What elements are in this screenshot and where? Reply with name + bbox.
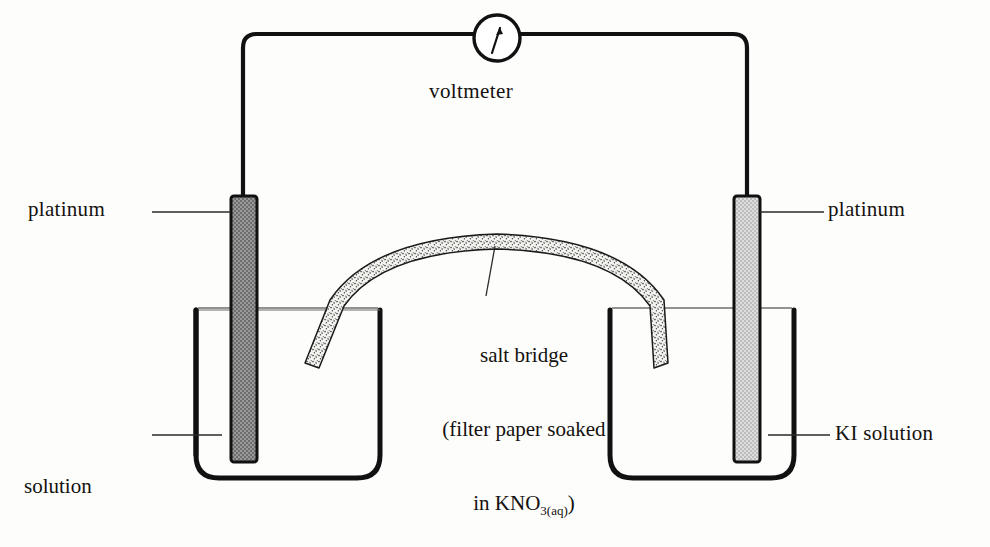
- salt-bridge-label-line3: in KNO3(aq)): [404, 491, 644, 519]
- salt-bridge-label: salt bridge (filter paper soaked in KNO3…: [404, 293, 644, 547]
- kno3-close-paren: ): [568, 491, 575, 515]
- voltmeter-label: voltmeter: [429, 79, 513, 104]
- kno3-text: in KNO: [473, 491, 540, 515]
- platinum-right-label: platinum: [828, 197, 905, 222]
- salt-bridge-label-line1: salt bridge: [404, 343, 644, 368]
- ki-solution-label: KI solution: [835, 421, 933, 446]
- left-platinum-electrode: [231, 196, 257, 462]
- kno3-subscript: 3(aq): [540, 503, 567, 518]
- fe-label-line1: solution: [24, 474, 113, 499]
- voltmeter-meter-icon: [474, 15, 520, 61]
- electrochemical-cell-diagram: voltmeter platinum platinum KI solution …: [0, 0, 990, 547]
- salt-bridge-leader-line: [486, 246, 495, 296]
- platinum-left-label: platinum: [28, 197, 105, 222]
- fe-solution-label: solution containing Fe2 + and Fe3 + ions: [24, 424, 113, 547]
- left-beaker: [196, 310, 380, 478]
- right-platinum-electrode: [734, 196, 760, 462]
- salt-bridge-label-line2: (filter paper soaked: [404, 417, 644, 442]
